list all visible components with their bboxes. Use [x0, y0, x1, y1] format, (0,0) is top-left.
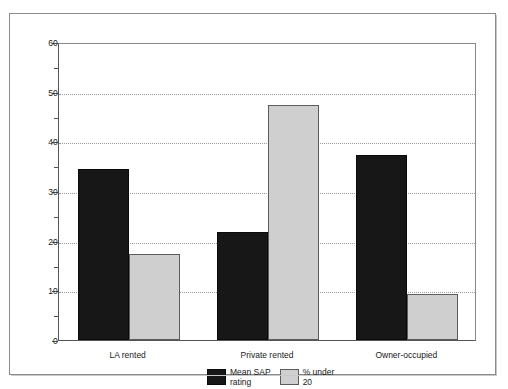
bar-owner-occupied-series-1 [356, 155, 407, 340]
y-axis-tick-label: 50 [16, 89, 58, 98]
legend-item-percent-under-20: % under 20 [280, 368, 335, 387]
y-axis-tick-label: 60 [16, 39, 58, 48]
bar-private-rented-series-2 [268, 105, 319, 340]
legend-label-mean-sap-rating: Mean SAP rating [230, 368, 271, 387]
x-axis-label-private-rented: Private rented [241, 350, 294, 360]
x-axis-label-la-rented: LA rented [109, 350, 145, 360]
bar-owner-occupied-series-2 [407, 294, 458, 340]
plot-area [58, 43, 476, 341]
legend-swatch-percent-under-20 [280, 369, 299, 385]
y-axis-tick-label: 0 [16, 337, 58, 346]
figure-frame: 0102030405060 LA rentedPrivate rentedOwn… [9, 13, 496, 375]
bar-la-rented-series-1 [78, 169, 129, 340]
y-axis-tick-label: 10 [16, 287, 58, 296]
y-axis: 0102030405060 [10, 14, 58, 389]
bar-la-rented-series-2 [129, 254, 180, 340]
y-axis-tick-label: 40 [16, 138, 58, 147]
y-axis-tick-label: 20 [16, 238, 58, 247]
chart-screenshot: 0102030405060 LA rentedPrivate rentedOwn… [0, 0, 508, 389]
legend-swatch-mean-sap-rating [207, 369, 226, 385]
legend-label-percent-under-20: % under 20 [303, 368, 335, 387]
legend-item-mean-sap-rating: Mean SAP rating [207, 368, 271, 387]
bars-layer [59, 44, 475, 340]
x-axis-label-owner-occupied: Owner-occupied [375, 350, 437, 360]
legend: Mean SAP rating % under 20 [207, 368, 334, 387]
y-axis-tick-label: 30 [16, 188, 58, 197]
bar-private-rented-series-1 [217, 232, 268, 340]
